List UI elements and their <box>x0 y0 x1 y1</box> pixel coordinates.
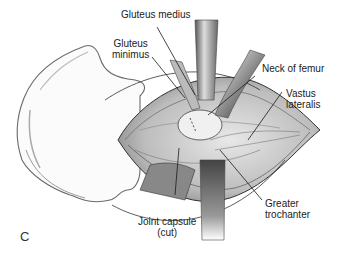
skin-flap <box>17 46 144 202</box>
label-greater-trochanter: Greater trochanter <box>265 198 310 220</box>
label-vastus-lateralis: Vastus lateralis <box>286 88 320 110</box>
surgical-illustration: Gluteus medius Gluteus minimus Neck of f… <box>0 0 340 255</box>
panel-letter: C <box>20 229 29 244</box>
label-neck-of-femur: Neck of femur <box>262 63 324 74</box>
label-gluteus-minimus: Gluteus minimus <box>112 38 149 60</box>
label-gluteus-medius: Gluteus medius <box>121 9 190 20</box>
label-joint-capsule: Joint capsule (cut) <box>138 216 196 238</box>
